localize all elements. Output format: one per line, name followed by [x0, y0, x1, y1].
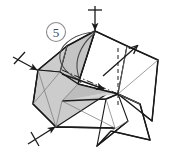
- step-number-label: 5: [53, 25, 60, 40]
- outline-bottom-edge: [56, 127, 115, 128]
- step-number-badge: 5: [47, 23, 66, 42]
- origami-figure: 5: [0, 0, 169, 156]
- origami-diagram-container: 5: [0, 0, 169, 156]
